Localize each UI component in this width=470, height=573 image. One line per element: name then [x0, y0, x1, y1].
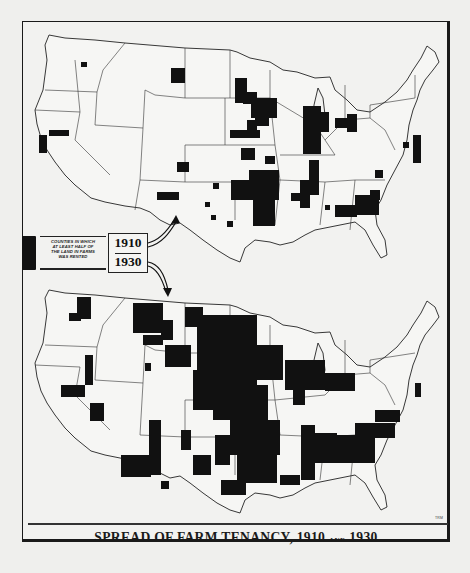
- year-label-1910: 1910: [109, 235, 147, 251]
- footer-rule: [28, 523, 448, 525]
- figure-title: SPREAD OF FARM TENANCY, 1910 AND 1930: [22, 530, 450, 546]
- legend-rule: [40, 268, 106, 270]
- legend-rule-top: [40, 236, 106, 237]
- legend: COUNTIES IN WHICH AT LEAST HALF OF THE L…: [22, 230, 182, 276]
- year-box: 1910 1930: [108, 233, 148, 273]
- us-outline-1910: [35, 35, 439, 262]
- map-1930: [25, 285, 445, 515]
- year-label-1930: 1930: [109, 254, 147, 270]
- title-main: SPREAD OF FARM TENANCY, 1910: [94, 530, 325, 545]
- legend-line-4: WAS RENTED: [40, 254, 106, 259]
- title-end: 1930: [349, 530, 377, 545]
- credit-mark: TRM: [435, 516, 443, 520]
- title-and: AND: [329, 536, 346, 544]
- legend-description: COUNTIES IN WHICH AT LEAST HALF OF THE L…: [40, 239, 106, 259]
- legend-swatch: [22, 236, 36, 270]
